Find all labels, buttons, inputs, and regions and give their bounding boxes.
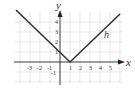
y-tick: 4 [55,19,58,25]
x-tick: 2 [79,65,82,71]
grid [15,12,122,82]
y-tick: 2 [55,39,58,45]
function-label: h [104,29,109,40]
x-tick: 5 [109,65,112,71]
x-tick: 3 [89,65,92,71]
y-tick: 3 [55,29,58,35]
x-tick-labels: -3 -2 -1 1 2 3 4 5 [27,65,112,71]
x-tick: -2 [37,65,42,71]
y-axis-label: y [55,0,61,11]
x-tick: -3 [27,65,32,71]
x-axis-label: x [125,56,131,68]
y-axis-arrow-icon [58,10,63,17]
y-tick: -1 [51,70,56,76]
x-tick: 4 [99,65,102,71]
x-tick: 1 [69,65,72,71]
graph-figure: x y -3 -2 -1 1 2 3 4 5 -1 1 2 3 4 h [0,0,135,93]
x-axis-arrow-icon [118,60,125,65]
